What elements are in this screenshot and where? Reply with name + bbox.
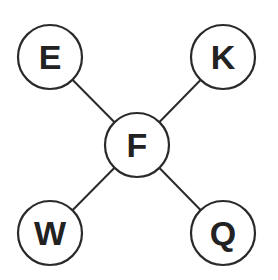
node-label: K <box>211 38 236 76</box>
node-label: W <box>34 214 67 252</box>
nodes-group: EKFWQ <box>18 25 255 265</box>
node-k: K <box>191 25 255 89</box>
node-f: F <box>105 113 169 177</box>
node-label: Q <box>210 214 236 252</box>
node-w: W <box>18 201 82 265</box>
star-diagram: EKFWQ <box>0 0 278 280</box>
node-q: Q <box>191 201 255 265</box>
node-label: E <box>39 38 62 76</box>
node-label: F <box>127 126 148 164</box>
node-e: E <box>18 25 82 89</box>
